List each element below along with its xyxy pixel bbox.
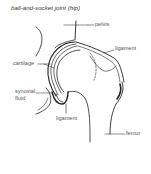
hip-joint-illustration: [0, 0, 151, 174]
label-ligament-top: ligament: [115, 46, 136, 52]
label-femur: femur: [126, 131, 140, 137]
label-fluid: fluid: [15, 96, 25, 102]
label-ligament-bottom: ligament: [56, 116, 77, 122]
label-synovial: synovial: [15, 89, 35, 95]
label-cartilage: cartilage: [13, 61, 34, 67]
label-pelvis: pelvis: [95, 22, 109, 28]
